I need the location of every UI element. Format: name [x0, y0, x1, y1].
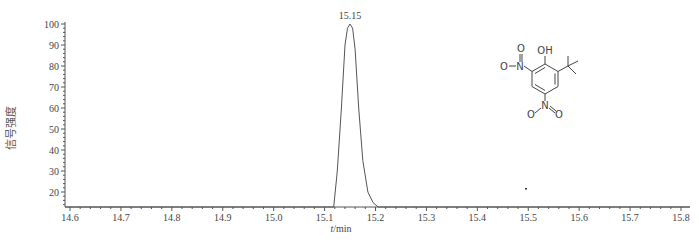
svg-text:OH: OH	[537, 45, 552, 56]
signal-trace	[65, 24, 690, 207]
y-tick-label: 100	[44, 19, 59, 30]
y-tick-label: 50	[49, 124, 59, 135]
stray-mark	[525, 188, 527, 190]
x-tick-label: 15.2	[367, 212, 385, 223]
x-tick-label: 15.6	[570, 212, 588, 223]
x-tick-label: 15.8	[672, 212, 690, 223]
y-tick-label: 40	[49, 145, 59, 156]
x-tick-label: 15.4	[469, 212, 487, 223]
y-tick-label: 20	[49, 187, 59, 198]
x-tick-label: 14.9	[214, 212, 232, 223]
x-tick-label: 15.7	[621, 212, 639, 223]
svg-text:N: N	[541, 100, 548, 111]
y-tick-label: 30	[49, 166, 59, 177]
chromatogram-chart: 14.614.714.814.915.015.115.215.315.415.5…	[0, 0, 699, 242]
svg-text:O: O	[517, 43, 525, 54]
x-tick-label: 15.3	[418, 212, 436, 223]
x-tick-label: 14.8	[163, 212, 181, 223]
y-tick-label: 70	[49, 82, 59, 93]
x-tick-label: 15.1	[316, 212, 334, 223]
svg-text:O: O	[555, 109, 563, 120]
x-tick-label: 14.7	[112, 212, 130, 223]
x-tick-label: 15.5	[520, 212, 538, 223]
peak-label: 15.15	[339, 10, 362, 21]
x-axis-title: t/min	[330, 223, 351, 234]
svg-text:O: O	[500, 61, 508, 72]
y-axis-title: 信号强度	[2, 106, 18, 150]
svg-text:O: O	[527, 109, 535, 120]
y-tick-label: 60	[49, 103, 59, 114]
x-tick-label: 14.6	[61, 212, 79, 223]
x-tick-label: 15.0	[265, 212, 283, 223]
y-tick-label: 80	[49, 61, 59, 72]
axes: 14.614.714.814.915.015.115.215.315.415.5…	[44, 19, 690, 224]
svg-text:N: N	[516, 61, 523, 72]
y-tick-label: 90	[49, 40, 59, 51]
